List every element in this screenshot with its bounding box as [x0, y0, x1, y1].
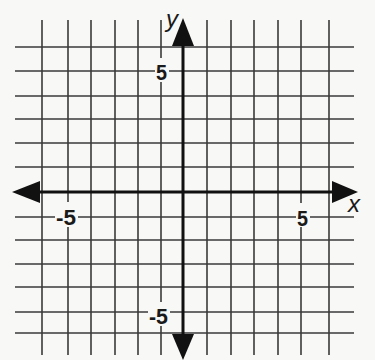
- tick-label-y-neg-5: -5: [149, 304, 168, 329]
- tick-label-x-5: 5: [297, 206, 308, 231]
- y-axis-label: y: [164, 5, 180, 32]
- tick-label-y-5: 5: [156, 60, 167, 85]
- x-axis-label: x: [347, 190, 361, 217]
- tick-label-x-neg-5: -5: [56, 205, 76, 230]
- y-axis-down-arrow-icon: [172, 334, 194, 360]
- x-axis-left-arrow-icon: [12, 181, 40, 203]
- coordinate-grid: 5 -5 5 -5 y x: [0, 0, 375, 360]
